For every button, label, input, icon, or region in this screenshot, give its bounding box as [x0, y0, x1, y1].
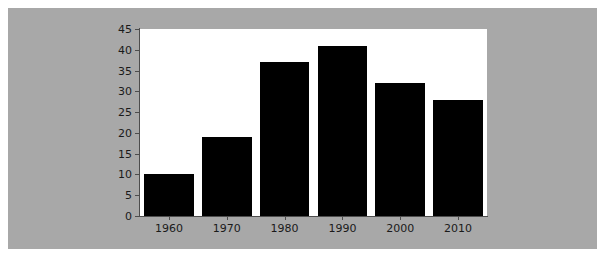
y-axis-tick-label: 25	[118, 107, 132, 118]
x-axis-tick-label: 1960	[155, 223, 183, 234]
y-axis-tick-label: 15	[118, 148, 132, 159]
x-axis-tick-label: 1980	[271, 223, 299, 234]
x-axis-spine	[139, 216, 488, 217]
y-axis-tick-label: 35	[118, 65, 132, 76]
x-axis-tick-label: 1970	[213, 223, 241, 234]
x-axis-tick	[400, 216, 401, 220]
y-axis-tick-label: 30	[118, 86, 132, 97]
bar	[318, 46, 368, 216]
x-axis-tick	[342, 216, 343, 220]
y-axis-tick-label: 5	[125, 190, 132, 201]
bar	[260, 62, 310, 216]
bar	[202, 137, 252, 216]
x-axis-tick	[227, 216, 228, 220]
x-axis-tick-label: 1990	[328, 223, 356, 234]
x-axis-tick	[285, 216, 286, 220]
bar	[375, 83, 425, 216]
y-axis-tick-label: 0	[125, 211, 132, 222]
x-axis-tick-label: 2000	[386, 223, 414, 234]
x-axis-tick-label: 2010	[444, 223, 472, 234]
x-axis-tick	[169, 216, 170, 220]
x-axis-tick	[458, 216, 459, 220]
plot-area: 051015202530354045 196019701980199020002…	[140, 29, 487, 216]
bar-series	[140, 29, 487, 216]
bar	[144, 174, 194, 216]
y-axis-tick-label: 20	[118, 127, 132, 138]
y-axis-tick-label: 10	[118, 169, 132, 180]
figure-canvas: 051015202530354045 196019701980199020002…	[0, 0, 605, 257]
y-axis-tick-label: 45	[118, 24, 132, 35]
y-axis-tick-label: 40	[118, 44, 132, 55]
y-axis-tick	[135, 216, 140, 217]
bar	[433, 100, 483, 216]
